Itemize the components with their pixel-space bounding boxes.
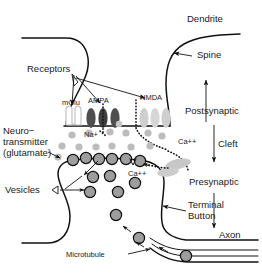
label-ampa: AMPA — [88, 96, 109, 105]
microtubule-leader — [128, 249, 150, 254]
label-microtubule: Microtubule — [66, 250, 105, 259]
label-dendrite: Dendrite — [187, 13, 223, 24]
label-neurotransmitter-line2: transmitter — [3, 136, 48, 147]
vesicles-leader-head — [52, 186, 58, 194]
label-calcium-cleft: Ca++ — [178, 137, 197, 146]
terminal-button-leader — [163, 206, 186, 211]
label-neurotransmitter-line1: Neuro− — [3, 125, 35, 136]
label-terminal-line2: Button — [188, 210, 215, 221]
nmda-receptor-icon — [161, 108, 170, 128]
label-presynaptic: Presynaptic — [189, 176, 239, 187]
label-mglu: mGlu — [62, 98, 80, 107]
label-calcium-terminal: Ca++ — [128, 169, 147, 178]
label-spine: Spine — [197, 49, 221, 60]
label-terminal-line1: Terminal — [188, 199, 224, 210]
ampa-receptor-icon — [86, 108, 95, 128]
label-neurotransmitter-line3: (glutamate) — [3, 147, 51, 158]
vesicles-leader-branch — [65, 176, 82, 189]
transport-vesicle — [133, 232, 144, 243]
nmda-receptor-icon — [139, 108, 148, 128]
spine-leader — [174, 53, 192, 56]
label-postsynaptic: Postsynaptic — [185, 105, 239, 116]
label-nmda: NMDA — [140, 93, 162, 102]
transport-vesicle — [180, 250, 191, 261]
label-axon: Axon — [219, 229, 241, 240]
nmda-receptor-icon — [150, 108, 159, 128]
label-sodium: Na+ — [84, 130, 99, 139]
figure-canvas: Dendrite Spine Receptors mGlu AMPA NMDA … — [0, 0, 262, 273]
synapse-diagram: Dendrite Spine Receptors mGlu AMPA NMDA … — [0, 0, 262, 273]
vesicle-transport-arrows — [123, 226, 192, 262]
label-vesicles: Vesicles — [5, 184, 40, 195]
receptors-leader-hub — [72, 74, 78, 86]
mglu-receptor-icon — [66, 106, 81, 125]
label-receptors: Receptors — [27, 63, 71, 74]
receptor-group-mglu — [66, 106, 81, 125]
label-cleft: Cleft — [218, 138, 238, 149]
